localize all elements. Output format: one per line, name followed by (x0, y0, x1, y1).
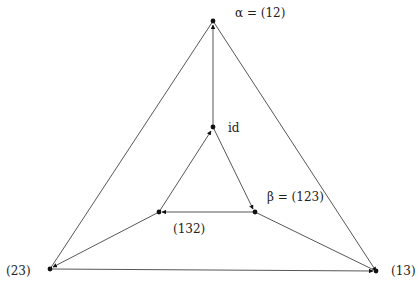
label-13: (13) (391, 264, 416, 278)
node-132 (157, 210, 162, 215)
edge-132-id (159, 131, 211, 212)
node-13 (374, 269, 379, 274)
edge-alpha-13 (213, 21, 376, 271)
edge-id-beta (213, 127, 253, 209)
node-23 (48, 267, 53, 272)
label-id: id (228, 121, 240, 135)
edge-23-13 (50, 269, 373, 271)
edge-beta-13 (255, 212, 376, 271)
node-id (211, 125, 216, 130)
label-alpha: α = (12) (235, 6, 285, 20)
label-beta: β = (123) (267, 190, 324, 204)
node-alpha (211, 19, 216, 24)
label-132: (132) (173, 222, 205, 236)
node-beta (253, 210, 258, 215)
label-23: (23) (6, 264, 31, 278)
cayley-graph: α = (12) id β = (123) (132) (23) (13) (0, 0, 419, 286)
